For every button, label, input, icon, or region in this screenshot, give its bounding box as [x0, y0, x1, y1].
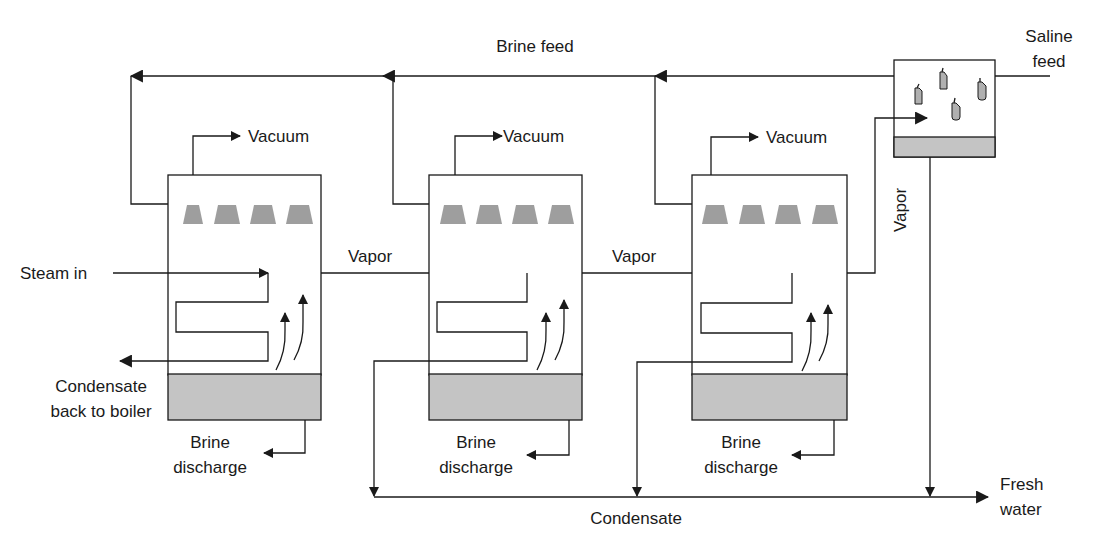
- brine-discharge-label-2a: Brine: [456, 433, 496, 452]
- tube-icon: [952, 103, 960, 120]
- vacuum-line: [455, 136, 502, 175]
- tube-icon: [915, 88, 922, 104]
- tube-icon: [978, 82, 986, 100]
- vacuum-line: [193, 136, 240, 175]
- fresh-water-label-1: Fresh: [1000, 475, 1043, 494]
- spray-nozzle-icon: [512, 205, 538, 224]
- brine-discharge-label-3b: discharge: [704, 458, 778, 477]
- condensate-back-label-1: Condensate: [55, 377, 147, 396]
- vacuum-line: [711, 137, 758, 175]
- med-process-diagram: Brine feed Saline feed: [0, 0, 1098, 547]
- vacuum-label-1: Vacuum: [248, 127, 309, 146]
- brine-pool: [168, 374, 321, 420]
- feed-preheater: [894, 60, 995, 157]
- spray-nozzle-icon: [548, 205, 574, 224]
- spray-nozzle-icon: [739, 205, 765, 224]
- brine-pool: [429, 374, 582, 420]
- saline-feed-label-2: feed: [1032, 52, 1065, 71]
- brine-discharge-label-1a: Brine: [190, 433, 230, 452]
- brine-discharge-label-1b: discharge: [173, 458, 247, 477]
- spray-nozzle-icon: [286, 205, 313, 224]
- vacuum-label-3: Vacuum: [766, 128, 827, 147]
- fresh-water-label-2: water: [999, 500, 1042, 519]
- spray-nozzle-icon: [702, 205, 728, 224]
- spray-nozzle-icon: [250, 205, 276, 224]
- spray-nozzle-icon: [812, 205, 838, 224]
- saline-feed-label-1: Saline: [1025, 27, 1072, 46]
- vapor-label-1: Vapor: [348, 247, 392, 266]
- spray-nozzle-icon: [476, 205, 502, 224]
- vapor-label-2: Vapor: [612, 247, 656, 266]
- brine-discharge-line: [792, 420, 834, 455]
- preheater-condensate-pool: [894, 137, 995, 157]
- vapor-label-3: Vapor: [891, 188, 910, 232]
- brine-feed-label: Brine feed: [496, 37, 574, 56]
- condensate-back-label-2: back to boiler: [50, 402, 151, 421]
- brine-discharge-label-2b: discharge: [439, 458, 513, 477]
- brine-discharge-line: [264, 420, 305, 453]
- spray-nozzle-icon: [775, 205, 801, 224]
- steam-in-label: Steam in: [20, 264, 87, 283]
- brine-discharge-line: [527, 420, 569, 455]
- spray-nozzle-icon: [214, 205, 240, 224]
- brine-pool: [692, 374, 847, 420]
- condensate-label: Condensate: [590, 509, 682, 528]
- tube-icon: [940, 72, 947, 89]
- brine-discharge-label-3a: Brine: [721, 433, 761, 452]
- spray-nozzle-icon: [440, 205, 466, 224]
- vacuum-label-2: Vacuum: [503, 127, 564, 146]
